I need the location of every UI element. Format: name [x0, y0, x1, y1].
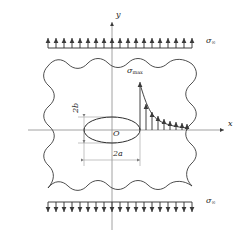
origin-label: O: [113, 130, 120, 138]
bottom-traction-arrows: [48, 202, 192, 212]
dimension-2a-label: 2a: [113, 150, 123, 158]
x-axis-label: x: [228, 120, 233, 128]
top-traction-arrows: [48, 38, 192, 48]
plate-edge-bottom: [48, 181, 192, 191]
dimension-2b-label: 2b: [72, 103, 80, 113]
plate-edge-top: [48, 59, 192, 69]
figure-canvas: σ∞ σ∞ σmax y x O 2b 2a: [0, 0, 244, 244]
y-axis-label: y: [116, 11, 121, 19]
plate-edge-left: [44, 66, 55, 188]
top-traction-group: [48, 38, 192, 48]
plate-boundary: [44, 59, 197, 191]
sigma-max-label: σmax: [127, 67, 143, 75]
sigma-infinity-bottom-label: σ∞: [206, 197, 216, 205]
bottom-traction-group: [48, 202, 192, 212]
stress-distribution-group: [140, 82, 188, 130]
axis-group: [28, 22, 224, 230]
sigma-infinity-top-label: σ∞: [206, 37, 216, 45]
